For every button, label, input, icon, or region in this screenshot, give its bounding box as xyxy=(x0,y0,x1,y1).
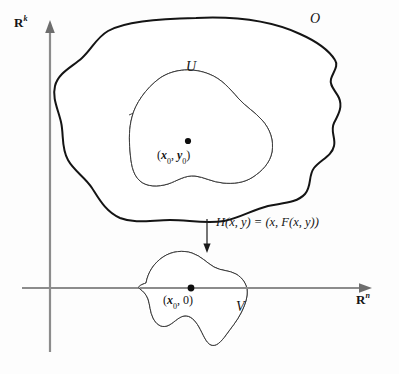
point-x0-y0-dot xyxy=(185,138,191,144)
vertical-axis-base: R xyxy=(14,15,23,30)
horizontal-axis-exponent: n xyxy=(365,291,369,300)
paren-close: ) xyxy=(186,148,190,162)
inner-set-label: U xyxy=(186,60,196,74)
image-set-v-outline-overlay xyxy=(139,251,247,345)
vertical-axis-exponent: k xyxy=(23,14,27,23)
vertical-axis-label: Rk xyxy=(14,16,27,29)
paren-close: ) xyxy=(189,293,193,307)
x-subscript: 0 xyxy=(167,157,171,166)
y-subscript: 0 xyxy=(182,157,186,166)
map-arrow-head xyxy=(203,244,210,254)
map-formula-label: H(x, y) = (x, F(x, y)) xyxy=(216,216,319,229)
point-x0-y0-label: (x0, y0) xyxy=(157,149,190,164)
point-x0-zero-label: (x0, 0) xyxy=(163,294,193,309)
point-x0-zero-dot xyxy=(188,285,195,292)
x-subscript: 0 xyxy=(173,302,177,311)
horizontal-axis-base: R xyxy=(356,292,365,307)
image-set-label: V xyxy=(236,300,245,314)
figure-canvas: Rk Rn O U V (x0, y0) (x0, 0) H(x, y) = (… xyxy=(0,0,399,374)
horizontal-axis-label: Rn xyxy=(356,293,370,306)
outer-set-label: O xyxy=(310,12,320,26)
map-arrow-group xyxy=(203,219,210,253)
diagram-svg xyxy=(0,0,399,374)
vertical-axis-arrowhead xyxy=(45,20,55,33)
